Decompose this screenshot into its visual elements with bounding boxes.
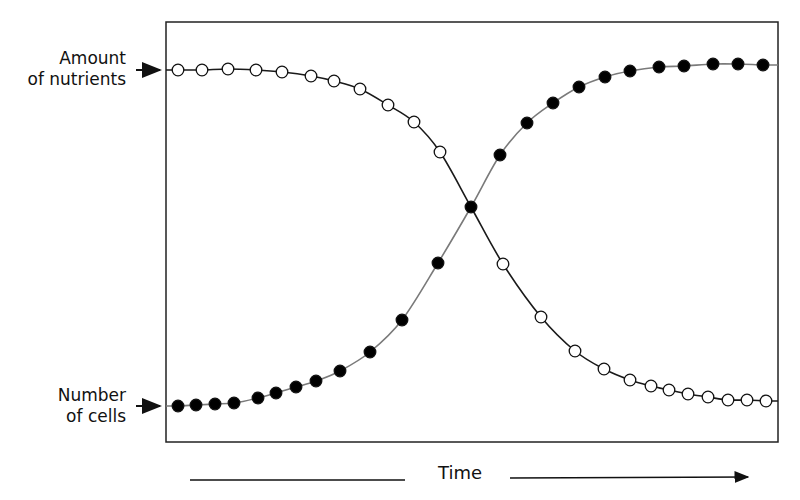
- nutrients-data-point: [682, 388, 694, 400]
- nutrients-data-point: [276, 66, 288, 78]
- cells-data-points: [172, 58, 769, 412]
- cells-data-point: [270, 387, 282, 399]
- cells-data-point: [252, 392, 264, 404]
- cells-data-point: [290, 381, 302, 393]
- cells-curve: [166, 64, 778, 406]
- cells-data-point: [190, 399, 202, 411]
- nutrients-data-point: [328, 75, 340, 87]
- nutrients-curve: [166, 69, 778, 401]
- nutrients-data-point: [663, 384, 675, 396]
- nutrients-data-point: [382, 99, 394, 111]
- cells-data-point: [599, 71, 611, 83]
- nutrients-data-point: [196, 64, 208, 76]
- nutrients-data-point: [434, 146, 446, 158]
- cells-data-point: [707, 58, 719, 70]
- cells-data-point: [209, 398, 221, 410]
- cells-data-point: [228, 397, 240, 409]
- nutrients-data-point: [569, 345, 581, 357]
- nutrients-data-point: [305, 70, 317, 82]
- nutrients-data-point: [535, 311, 547, 323]
- nutrients-data-point: [760, 395, 772, 407]
- nutrients-data-point: [722, 394, 734, 406]
- nutrients-data-point: [624, 374, 636, 386]
- cells-data-point: [521, 117, 533, 129]
- cells-data-point: [396, 314, 408, 326]
- nutrients-data-point: [172, 64, 184, 76]
- nutrients-data-point: [598, 363, 610, 375]
- nutrients-data-point: [250, 64, 262, 76]
- time-axis-arrow: [510, 477, 748, 478]
- cells-data-point: [494, 149, 506, 161]
- cells-data-point: [465, 201, 477, 213]
- cells-data-point: [653, 61, 665, 73]
- plot-frame: [166, 22, 778, 442]
- cells-data-point: [757, 59, 769, 71]
- nutrients-data-point: [222, 63, 234, 75]
- nutrients-data-point: [702, 391, 714, 403]
- cells-data-point: [573, 81, 585, 93]
- cells-data-point: [364, 346, 376, 358]
- cells-data-point: [334, 365, 346, 377]
- cells-data-point: [547, 97, 559, 109]
- nutrients-data-point: [741, 394, 753, 406]
- cells-data-point: [432, 257, 444, 269]
- cells-data-point: [310, 375, 322, 387]
- cells-data-point: [172, 400, 184, 412]
- nutrients-data-point: [497, 258, 509, 270]
- cells-data-point: [678, 60, 690, 72]
- cells-data-point: [732, 58, 744, 70]
- nutrients-data-points: [172, 63, 772, 407]
- nutrients-data-point: [645, 380, 657, 392]
- nutrients-data-point: [408, 116, 420, 128]
- growth-chart: [0, 0, 800, 500]
- nutrients-data-point: [354, 83, 366, 95]
- cells-data-point: [624, 65, 636, 77]
